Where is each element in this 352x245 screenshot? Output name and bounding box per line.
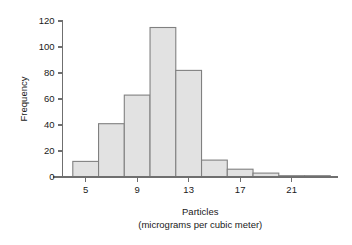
x-tick-label: 17 xyxy=(235,184,246,195)
histogram-bar xyxy=(176,70,202,177)
histogram-bar xyxy=(124,95,150,177)
histogram-bar xyxy=(202,160,228,177)
y-tick-label: 40 xyxy=(44,119,55,130)
y-tick-label: 120 xyxy=(39,15,55,26)
y-tick-label: 100 xyxy=(39,41,55,52)
x-axis-subtitle: (micrograms per cubic meter) xyxy=(138,219,262,230)
histogram-bar xyxy=(227,169,253,177)
histogram-canvas: 020406080100120 59131721 Frequency Parti… xyxy=(0,0,352,245)
histogram-bar xyxy=(73,161,99,177)
x-tick-label: 13 xyxy=(183,184,194,195)
histogram-bar xyxy=(150,28,176,178)
x-axis-title: Particles xyxy=(182,206,219,217)
histogram-figure: 020406080100120 59131721 Frequency Parti… xyxy=(0,0,352,245)
y-tick-label: 80 xyxy=(44,67,55,78)
x-tick-label: 21 xyxy=(286,184,297,195)
y-tick-label: 20 xyxy=(44,145,55,156)
y-axis-title: Frequency xyxy=(18,76,29,121)
histogram-bar xyxy=(99,124,125,177)
y-tick-label: 60 xyxy=(44,93,55,104)
x-tick-label: 5 xyxy=(83,184,88,195)
y-tick-label: 0 xyxy=(49,171,54,182)
x-tick-label: 9 xyxy=(135,184,140,195)
